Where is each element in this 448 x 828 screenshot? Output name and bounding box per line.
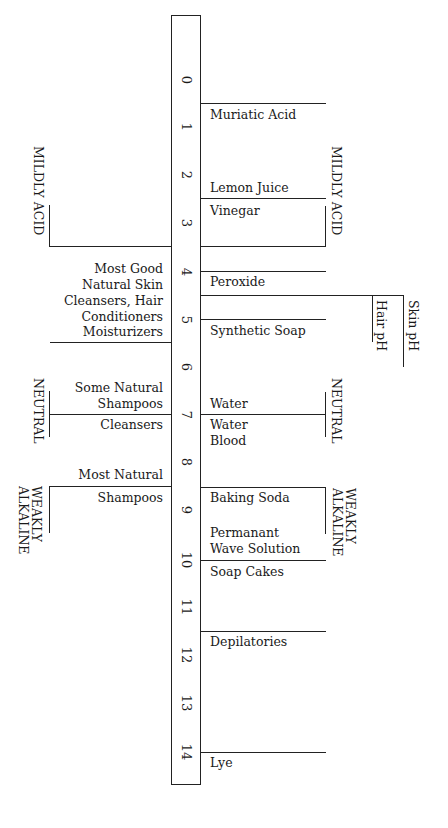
line-synthetic-soap [201,319,326,320]
tick-9: 9 [179,496,193,524]
label-natural-skin: Natural Skin [82,277,163,293]
label-weakly-alkaline-left: WEAKLY ALKALINE [16,486,43,555]
tick-6: 6 [179,353,193,381]
bracket-neutral-left [49,391,50,437]
label-weakly-alkaline-right: WEAKLY ALKALINE [330,488,357,557]
tick-13: 13 [179,689,193,717]
label-blood: Blood [210,433,246,449]
label-hair-ph: Hair pH [375,300,388,351]
line-lemon-vinegar [201,198,326,199]
label-muriatic-acid: Muriatic Acid [210,107,296,123]
tick-1: 1 [179,113,193,141]
line-peroxide [201,271,326,272]
label-shampoos-2: Shampoos [98,490,163,506]
label-water-2: Water [210,417,248,433]
tick-8: 8 [179,448,193,476]
label-neutral-left: NEUTRAL [32,378,45,444]
bracket-hair-ph [372,295,373,342]
tick-5: 5 [179,306,193,334]
line-neutral-left [49,414,171,415]
tick-11: 11 [179,593,193,621]
tick-10: 10 [179,546,193,574]
label-most-natural: Most Natural [78,467,163,483]
label-conditioners: Conditioners [81,309,163,325]
label-mildly-acid-right: MILDLY ACID [330,146,343,235]
label-cleansers-hair: Cleansers, Hair [64,293,163,309]
tick-3: 3 [179,209,193,237]
tick-7: 7 [179,401,193,429]
tick-12: 12 [179,641,193,669]
bracket-mildly-acid-left [49,205,50,246]
bracket-weakly-alkaline-left [49,486,50,533]
label-cleansers: Cleansers [100,417,163,433]
bracket-weakly-alkaline-right [325,487,326,534]
tick-2: 2 [179,161,193,189]
line-depilatories [201,631,326,632]
bracket-skin-ph [403,295,404,367]
label-water: Water [210,396,248,412]
label-moisturizers: Moisturizers [83,324,163,340]
line-moisturizers [50,342,171,343]
label-some-natural: Some Natural [75,380,163,396]
bracket-mildly-acid-right [325,206,326,246]
line-mildly-acid-right [201,246,326,247]
line-water [201,414,326,415]
label-skin-ph: Skin pH [407,300,420,351]
line-soap-cakes [201,560,326,561]
bracket-neutral-right [325,392,326,437]
label-baking-soda: Baking Soda [210,490,290,506]
label-permanant: Permanant [210,525,279,541]
label-depilatories: Depilatories [210,634,287,650]
tick-4: 4 [179,258,193,286]
label-soap-cakes: Soap Cakes [210,564,284,580]
label-vinegar: Vinegar [210,203,260,219]
tick-14: 14 [179,738,193,766]
label-synthetic-soap: Synthetic Soap [210,323,306,339]
label-shampoos-1: Shampoos [98,396,163,412]
label-most-good: Most Good [94,261,163,277]
tick-0: 0 [179,66,193,94]
label-lemon-juice: Lemon Juice [210,180,289,196]
line-mildly-acid-left [49,246,171,247]
label-lye: Lye [210,755,233,771]
label-mildly-acid-left: MILDLY ACID [32,146,45,235]
label-wave-solution: Wave Solution [210,541,300,557]
label-peroxide: Peroxide [210,274,265,290]
line-lye [201,752,326,753]
line-weakly-alkaline-left [49,486,171,487]
label-neutral-right: NEUTRAL [330,378,343,444]
line-muriatic [201,103,326,104]
line-skin-hair-ph [201,295,404,296]
line-baking-soda [201,487,326,488]
